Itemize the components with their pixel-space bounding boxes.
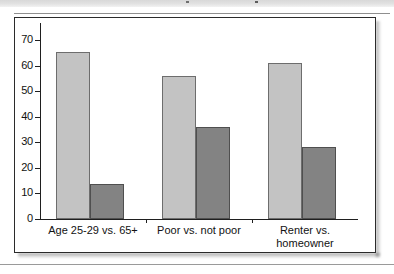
y-tick-label-wrap: 60 [15, 60, 33, 71]
category-label-line: homeowner [252, 237, 358, 250]
y-tick-label-wrap: 20 [15, 162, 33, 173]
figure-drop-shadow [18, 253, 380, 258]
x-axis-line [40, 219, 358, 220]
scan-speck-icon [255, 1, 258, 3]
y-tick-30 [35, 142, 40, 143]
scan-speck-icon [186, 1, 189, 3]
category-separator [252, 219, 253, 223]
category-label-line: Age 25-29 vs. 65+ [40, 224, 146, 237]
scan-band-top [0, 0, 394, 7]
y-tick-70 [35, 40, 40, 41]
y-axis-tick-label: 60 [13, 60, 33, 71]
bar-dark-series-1 [196, 127, 230, 219]
category-label-2: Renter vs.homeowner [252, 224, 358, 250]
category-separator [146, 219, 147, 223]
bar-dark-series-2 [302, 147, 336, 219]
y-tick-label-wrap: 50 [15, 85, 33, 96]
y-tick-50 [35, 91, 40, 92]
category-label-1: Poor vs. not poor [146, 224, 252, 237]
y-axis-tick-label: 20 [13, 162, 33, 173]
bar-light-series-1 [162, 76, 196, 219]
y-tick-label-wrap: 30 [15, 136, 33, 147]
bar-light-series-0 [56, 52, 90, 219]
y-axis-line [40, 23, 41, 220]
y-tick-label-wrap: 40 [15, 111, 33, 122]
bar-light-series-2 [268, 63, 302, 219]
page-rule-top [14, 13, 390, 14]
y-axis-tick-label: 70 [13, 34, 33, 45]
y-axis-tick-label: 40 [13, 111, 33, 122]
y-axis-tick-label: 10 [13, 187, 33, 198]
y-tick-10 [35, 193, 40, 194]
figure-drop-shadow-right [376, 21, 381, 257]
page-rule-bottom [0, 264, 394, 265]
y-tick-label-wrap: 70 [15, 34, 33, 45]
y-axis-tick-label: 30 [13, 136, 33, 147]
category-label-0: Age 25-29 vs. 65+ [40, 224, 146, 237]
y-tick-40 [35, 117, 40, 118]
y-tick-label-wrap: 0 [15, 213, 33, 224]
y-tick-20 [35, 168, 40, 169]
y-tick-0 [35, 219, 40, 220]
y-axis-tick-label: 50 [13, 85, 33, 96]
category-label-line: Renter vs. [252, 224, 358, 237]
y-axis-tick-label: 0 [13, 213, 33, 224]
category-label-line: Poor vs. not poor [146, 224, 252, 237]
y-tick-60 [35, 66, 40, 67]
plot-area: 010203040506070 Age 25-29 vs. 65+Poor vs… [15, 18, 375, 252]
bar-dark-series-0 [90, 184, 124, 219]
bar-chart-figure: 010203040506070 Age 25-29 vs. 65+Poor vs… [14, 17, 376, 253]
y-tick-label-wrap: 10 [15, 187, 33, 198]
